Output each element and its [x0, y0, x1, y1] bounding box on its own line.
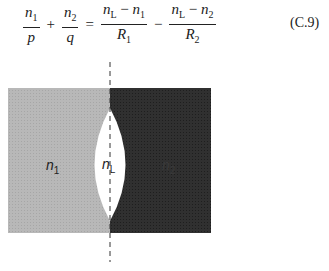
label-nl: nL [102, 156, 115, 175]
label-n1: n1 [46, 157, 59, 176]
lens-diagram [0, 0, 329, 271]
label-n2: n2 [162, 157, 175, 176]
